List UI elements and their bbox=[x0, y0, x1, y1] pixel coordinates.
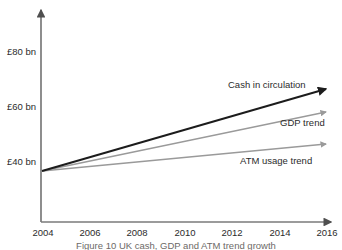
chart-page: £80 bn £60 bn £40 bn 2004 2006 2008 2010… bbox=[0, 0, 342, 250]
x-tick-label-2014: 2014 bbox=[269, 227, 290, 238]
series-label-atm-usage-trend: ATM usage trend bbox=[240, 155, 312, 166]
x-tick-label-2004: 2004 bbox=[32, 227, 53, 238]
y-tick-label-80: £80 bn bbox=[7, 46, 36, 57]
y-tick-label-40: £40 bn bbox=[7, 156, 36, 167]
y-tick-label-60: £60 bn bbox=[7, 101, 36, 112]
series-label-gdp-trend: GDP trend bbox=[280, 117, 325, 128]
x-tick-label-2016: 2016 bbox=[316, 227, 337, 238]
trend-line-chart: £80 bn £60 bn £40 bn 2004 2006 2008 2010… bbox=[0, 0, 342, 250]
x-tick-label-2008: 2008 bbox=[126, 227, 147, 238]
figure-caption: Figure 10 UK cash, GDP and ATM trend gro… bbox=[76, 240, 276, 250]
series-label-cash-in-circulation: Cash in circulation bbox=[228, 79, 306, 90]
x-tick-label-2010: 2010 bbox=[174, 227, 195, 238]
x-tick-label-2012: 2012 bbox=[221, 227, 242, 238]
x-tick-label-2006: 2006 bbox=[79, 227, 100, 238]
